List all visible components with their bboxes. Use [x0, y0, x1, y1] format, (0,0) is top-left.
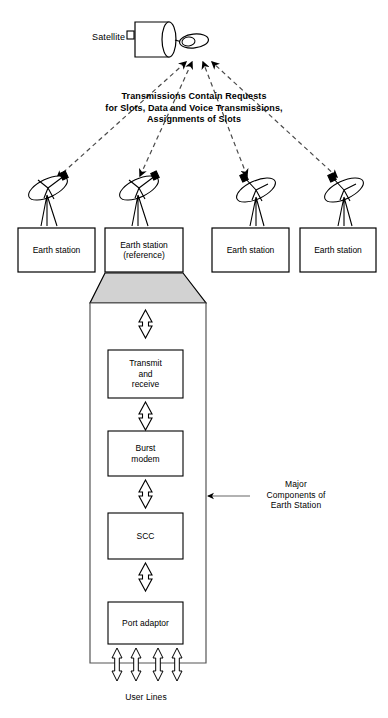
earth-station-dish-3: [233, 173, 279, 226]
earth-station-label-1: Earth station: [18, 228, 95, 272]
satellite-label: Satellite: [80, 32, 125, 43]
reference-expansion-trapezoid: [90, 273, 206, 303]
component-label-transmit-receive: Transmit and receive: [108, 350, 183, 398]
earth-station-dish-2: [116, 171, 162, 226]
earth-station-dish-1: [25, 171, 71, 226]
user-lines-label: User Lines: [106, 692, 186, 703]
component-label-burst-modem: Burst modem: [108, 431, 183, 476]
component-label-port-adaptor: Port adaptor: [108, 602, 183, 644]
satellite-network-diagram: Satellite Transmissions Contain Requests…: [0, 0, 388, 718]
major-components-callout: Major Components of Earth Station: [248, 479, 344, 511]
component-label-scc: SCC: [108, 513, 183, 559]
satellite-icon: [127, 22, 209, 57]
earth-station-label-3: Earth station: [212, 228, 289, 272]
earth-station-label-4: Earth station: [300, 228, 376, 272]
earth-station-dish-4: [321, 173, 367, 226]
earth-station-label-2: Earth station (reference): [105, 228, 183, 272]
uplink-transmission-note: Transmissions Contain Requests for Slots…: [74, 91, 314, 126]
